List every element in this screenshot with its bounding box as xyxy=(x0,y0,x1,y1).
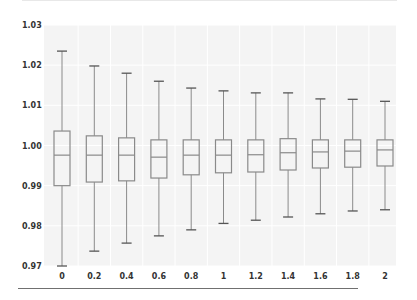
x-tick-label: 1.4 xyxy=(281,272,296,281)
y-tick-label: 1.03 xyxy=(22,21,42,30)
bottom-border-line xyxy=(18,288,358,289)
x-tick-label: 1.6 xyxy=(313,272,328,281)
x-tick-label: 2 xyxy=(382,272,388,281)
y-tick-label: 1.00 xyxy=(22,142,42,151)
y-tick-label: 0.99 xyxy=(22,182,42,191)
x-tick-label: 0.6 xyxy=(152,272,167,281)
x-tick-label: 0.8 xyxy=(184,272,199,281)
y-tick-label: 0.97 xyxy=(22,262,42,271)
x-tick-label: 1 xyxy=(221,272,227,281)
box-plot-chart: 1.031.021.011.000.990.980.9700.20.40.60.… xyxy=(0,0,417,300)
x-tick-label: 0 xyxy=(59,272,65,281)
y-tick-label: 1.02 xyxy=(22,61,42,70)
x-tick-label: 0.4 xyxy=(120,272,135,281)
x-tick-label: 1.8 xyxy=(346,272,361,281)
y-tick-label: 1.01 xyxy=(22,101,42,110)
x-tick-label: 1.2 xyxy=(249,272,263,281)
y-tick-label: 0.98 xyxy=(22,222,42,231)
x-tick-label: 0.2 xyxy=(87,272,101,281)
